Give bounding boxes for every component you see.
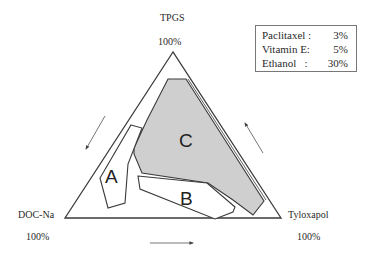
ternary-phase-diagram: A B C xyxy=(0,0,375,254)
right-edge-arrow xyxy=(245,123,263,153)
region-label-a: A xyxy=(105,166,118,187)
left-edge-arrow xyxy=(86,116,105,149)
region-label-c: C xyxy=(179,130,193,151)
region-label-b: B xyxy=(180,188,193,209)
